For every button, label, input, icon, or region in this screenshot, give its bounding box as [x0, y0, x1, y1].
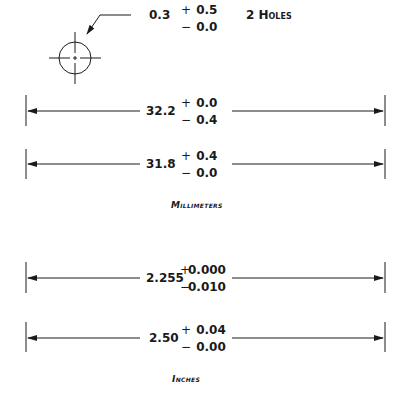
- dimension-nominal: 2.255: [146, 271, 184, 285]
- minus-sign: −: [180, 279, 188, 296]
- dimension-nominal: 2.50: [149, 331, 179, 345]
- plus-tolerance: 0.5: [196, 3, 217, 17]
- hole-symbol-icon: [49, 32, 101, 84]
- plus-tolerance: 0.04: [196, 323, 226, 337]
- units-caption-mm: Millimeters: [171, 200, 223, 210]
- leader-arrow-icon: [87, 15, 131, 34]
- plus-sign: +: [180, 322, 192, 339]
- units-caption-in: Inches: [172, 374, 200, 384]
- minus-tolerance: 0.0: [196, 20, 217, 34]
- dimension-tolerance: + 0.04 − 0.00: [180, 322, 226, 356]
- hole-tolerance: + 0.5 − 0.0: [180, 2, 217, 36]
- minus-sign: −: [180, 19, 192, 36]
- minus-tolerance: 0.4: [196, 113, 217, 127]
- plus-tolerance: 0.4: [196, 149, 217, 163]
- dimension-tolerance: + 0.0 − 0.4: [180, 95, 217, 129]
- minus-sign: −: [180, 339, 192, 356]
- dimension-nominal: 32.2: [146, 104, 176, 118]
- plus-tolerance: 0.0: [196, 96, 217, 110]
- plus-tolerance: 0.000: [188, 263, 226, 277]
- minus-tolerance: 0.0: [196, 166, 217, 180]
- plus-sign: +: [180, 148, 192, 165]
- minus-sign: −: [180, 112, 192, 129]
- plus-sign: +: [180, 95, 192, 112]
- minus-tolerance: 0.00: [196, 340, 226, 354]
- minus-tolerance: 0.010: [188, 280, 226, 294]
- plus-sign: +: [180, 262, 188, 279]
- minus-sign: −: [180, 165, 192, 182]
- plus-sign: +: [180, 2, 192, 19]
- dimension-tolerance: +0.000 −0.010: [180, 262, 226, 296]
- hole-count-note: 2 Holes: [246, 8, 292, 22]
- dimension-nominal: 31.8: [146, 157, 176, 171]
- dimension-tolerance: + 0.4 − 0.0: [180, 148, 217, 182]
- hole-nominal: 0.3: [149, 8, 170, 22]
